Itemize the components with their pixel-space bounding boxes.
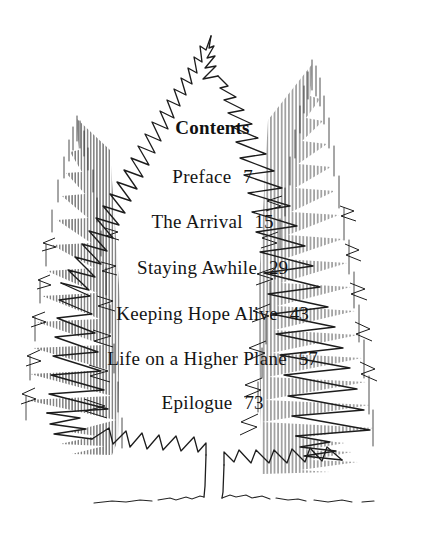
- toc-entry-page: 7: [243, 166, 253, 187]
- toc-entry-page: 57: [299, 348, 318, 369]
- toc-entry-title: Epilogue: [162, 392, 233, 413]
- page-title: Contents: [0, 117, 425, 139]
- toc-entry-page: 73: [244, 392, 263, 413]
- toc-entry-keeping-hope-alive[interactable]: Keeping Hope Alive43: [0, 303, 425, 325]
- toc-entry-title: Keeping Hope Alive: [116, 303, 278, 324]
- toc-entry-life-on-a-higher-plane[interactable]: Life on a Higher Plane57: [0, 348, 425, 370]
- toc-entry-epilogue[interactable]: Epilogue73: [0, 392, 425, 414]
- toc-entry-staying-awhile[interactable]: Staying Awhile29: [0, 257, 425, 279]
- toc-entry-title: The Arrival: [151, 211, 242, 232]
- toc-entry-preface[interactable]: Preface7: [0, 166, 425, 188]
- toc-entry-page: 29: [269, 257, 288, 278]
- toc-entry-title: Life on a Higher Plane: [107, 348, 287, 369]
- toc-entry-page: 15: [255, 211, 274, 232]
- toc-entry-the-arrival[interactable]: The Arrival15: [0, 211, 425, 233]
- contents-page: Contents Preface7 The Arrival15 Staying …: [0, 0, 425, 542]
- toc-entry-title: Preface: [172, 166, 231, 187]
- toc-entry-title: Staying Awhile: [137, 257, 257, 278]
- toc-entry-page: 43: [290, 303, 309, 324]
- table-of-contents: Contents Preface7 The Arrival15 Staying …: [0, 0, 425, 542]
